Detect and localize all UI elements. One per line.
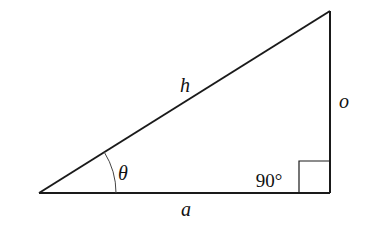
triangle-svg: h o a θ 90° (0, 0, 368, 226)
right-angle-marker (299, 161, 330, 193)
adjacent-label: a (181, 198, 191, 220)
opposite-label: o (339, 90, 349, 112)
hypotenuse-side (39, 11, 330, 193)
triangle-diagram: h o a θ 90° (0, 0, 368, 226)
theta-label: θ (118, 162, 128, 184)
hypotenuse-label: h (180, 74, 190, 96)
right-angle-label: 90° (256, 170, 283, 191)
theta-arc (104, 152, 116, 193)
